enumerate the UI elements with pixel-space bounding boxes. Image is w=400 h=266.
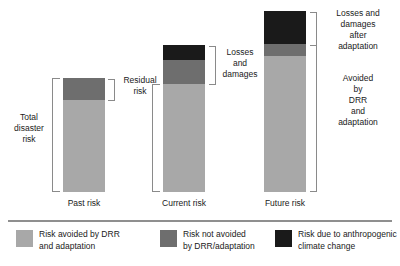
legend-label-anthropogenic: Risk due to anthropogenic climate change bbox=[298, 229, 397, 252]
legend-item-anthropogenic: Risk due to anthropogenic climate change bbox=[275, 230, 400, 252]
bar-current-risk-segment-anthropogenic bbox=[163, 45, 205, 60]
legend-label-avoided: Risk avoided by DRR and adaptation bbox=[39, 229, 120, 252]
legend-divider bbox=[8, 220, 392, 222]
bracket-avoided-by-drr bbox=[310, 45, 317, 192]
bar-future-risk-segment-anthropogenic bbox=[264, 11, 306, 44]
bar-current-risk-segment-avoided bbox=[163, 84, 205, 192]
legend-swatch-anthropogenic bbox=[275, 230, 292, 247]
annotation-losses-and-damages: Losses and damages bbox=[214, 47, 266, 80]
legend-swatch-not-avoided bbox=[160, 230, 177, 247]
annotation-avoided-by-drr: Avoided by DRR and adaptation bbox=[320, 73, 396, 128]
bracket-total-disaster-risk bbox=[52, 78, 60, 192]
legend-label-not-avoided: Risk not avoided by DRR/adaptation bbox=[183, 229, 255, 252]
bar-future-risk bbox=[264, 11, 306, 192]
legend-item-avoided: Risk avoided by DRR and adaptation bbox=[16, 230, 176, 252]
axis-label-past-risk: Past risk bbox=[44, 198, 124, 208]
bar-current-risk bbox=[163, 45, 205, 192]
annotation-residual-risk: Residual risk bbox=[116, 75, 164, 97]
bracket-residual-risk bbox=[108, 79, 115, 101]
risk-adaptation-diagram: Past risk Current risk Future risk Total… bbox=[0, 0, 400, 266]
annotation-total-disaster-risk: Total disaster risk bbox=[6, 112, 52, 145]
legend-swatch-avoided bbox=[16, 230, 33, 247]
bar-future-risk-segment-not-avoided bbox=[264, 44, 306, 56]
bracket-losses-after-adaptation bbox=[310, 12, 317, 46]
bar-future-risk-segment-avoided bbox=[264, 56, 306, 192]
axis-label-current-risk: Current risk bbox=[144, 198, 224, 208]
bar-past-risk bbox=[63, 78, 105, 192]
annotation-losses-after-adaptation: Losses and damages after adaptation bbox=[320, 8, 396, 52]
bracket-current-total-risk bbox=[152, 84, 160, 192]
bar-current-risk-segment-not-avoided bbox=[163, 60, 205, 84]
axis-label-future-risk: Future risk bbox=[245, 198, 325, 208]
bar-past-risk-segment-avoided bbox=[63, 100, 105, 192]
bar-past-risk-segment-not-avoided bbox=[63, 78, 105, 100]
